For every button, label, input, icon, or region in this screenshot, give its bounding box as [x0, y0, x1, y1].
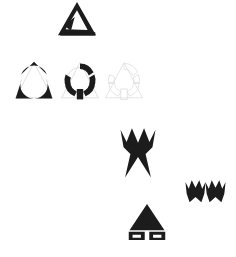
- segmented-triangle-ring-outline-glyph: [104, 61, 144, 103]
- triangle-with-feet-glyph: [128, 204, 166, 240]
- ghost-ring-outline: [106, 63, 143, 100]
- artboard: [0, 0, 236, 257]
- three-point-crown-large-glyph: [119, 126, 157, 179]
- triangle-ring-path: [58, 2, 96, 35]
- triangle-with-circular-hole-glyph: [58, 2, 96, 36]
- footed-triangle-body: [130, 204, 165, 230]
- crown-large-path: [121, 128, 156, 177]
- crown-small-b-path: [205, 180, 225, 202]
- three-point-crown-small-glyph: [205, 179, 226, 203]
- triangle-ring-base-bar: [60, 32, 95, 35]
- footed-triangle-left-foot: [129, 232, 145, 240]
- segmented-triangle-ring-annulus-glyph: [60, 61, 100, 103]
- footed-triangle-right-foot: [149, 232, 165, 240]
- segmented-triangle-ring-solid-glyph: [14, 61, 54, 103]
- crown-small-a-path: [185, 180, 205, 202]
- ring-arc-segments: [64, 63, 95, 99]
- ring-segments: [16, 62, 53, 99]
- three-point-crown-small-glyph: [185, 179, 206, 203]
